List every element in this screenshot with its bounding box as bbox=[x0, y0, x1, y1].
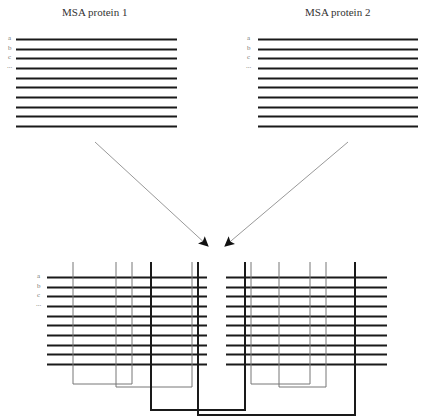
msa-protein-1-block bbox=[16, 40, 177, 127]
arrow bbox=[225, 142, 348, 246]
intra-protein-connector bbox=[251, 262, 310, 384]
intra-protein-connector bbox=[73, 262, 132, 384]
merge-arrows bbox=[95, 142, 348, 246]
combined-left-block bbox=[47, 278, 207, 365]
combined-right-block bbox=[226, 278, 387, 365]
msa-concatenation-diagram bbox=[0, 0, 423, 417]
inter-protein-connector bbox=[198, 262, 355, 415]
coevolution-connectors bbox=[73, 262, 355, 415]
msa-protein-2-block bbox=[258, 40, 418, 127]
arrow bbox=[95, 142, 208, 246]
